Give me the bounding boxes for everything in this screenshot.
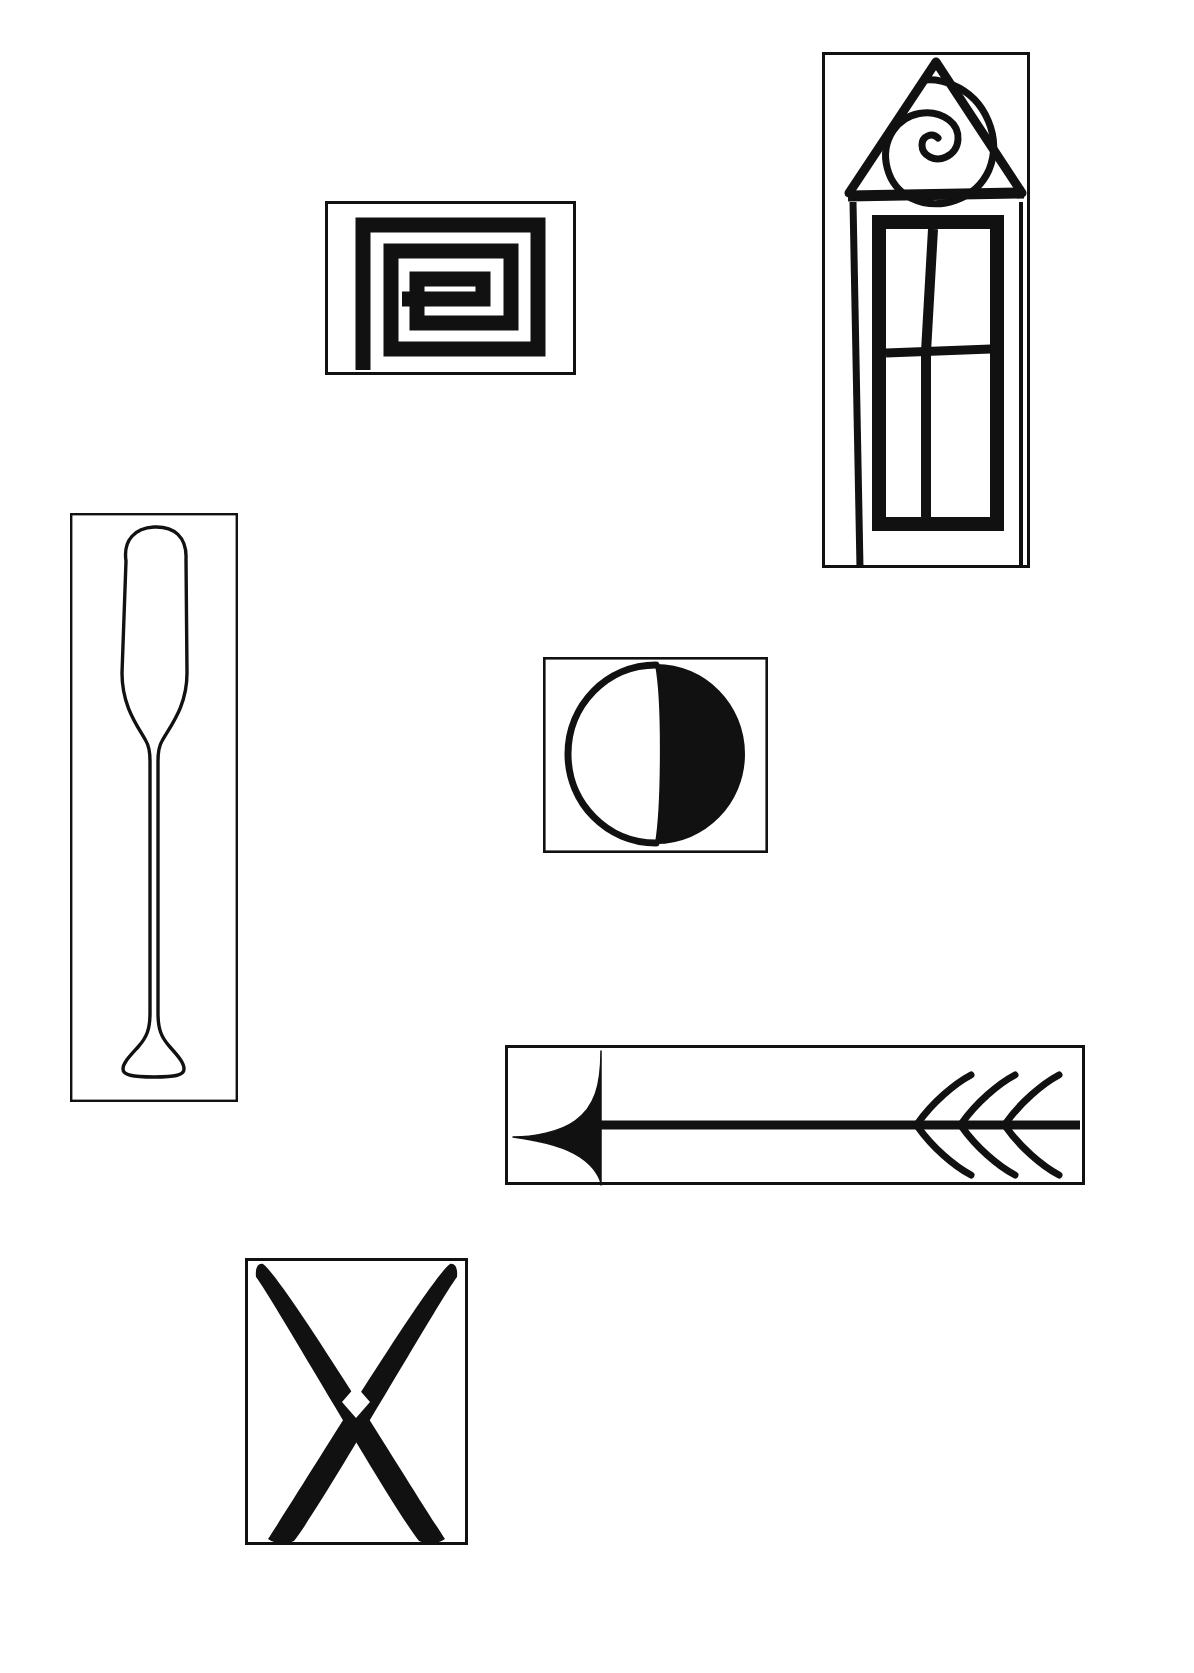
window-casing — [879, 222, 997, 524]
house-left-wall — [853, 202, 860, 568]
panel-goblet: Tall goblet — [70, 513, 238, 1102]
panel-square-spiral: Square spiral — [325, 201, 576, 375]
arrow-barb-lower-3 — [1006, 1127, 1059, 1175]
panel-arrow: Arrow — [505, 1045, 1085, 1185]
window-mullion-vertical — [926, 229, 933, 517]
gable-cornice — [848, 193, 1024, 196]
arrow-barb-upper-3 — [1006, 1075, 1059, 1123]
square-spiral-stroke — [363, 225, 538, 370]
panel-half-moon: Half-filled circle — [543, 657, 768, 853]
goblet-contour-icon — [122, 527, 187, 1077]
window-mullion-horizontal — [886, 349, 991, 353]
goblet-frame — [71, 514, 237, 1101]
arrow-fletching — [513, 1051, 601, 1185]
symbol-plate: Square spiral House with spiral pediment — [0, 0, 1194, 1673]
moon-light-half — [568, 665, 656, 843]
moon-dark-half — [656, 665, 744, 843]
panel-house-window: House with spiral pediment — [822, 52, 1030, 568]
panel-saltire: Saltire cross — [245, 1258, 468, 1545]
gable-spiral-icon — [886, 80, 994, 204]
